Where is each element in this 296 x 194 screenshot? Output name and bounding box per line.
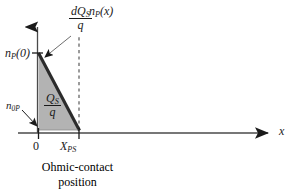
figure-caption: Ohmic-contact position bbox=[0, 160, 155, 190]
xps-subscript: PS bbox=[67, 145, 76, 154]
n0p-base: n bbox=[6, 99, 12, 111]
figure-container: nP(x) nP(0) n0P dQS q QS q 0 XPS x Ohmic… bbox=[0, 0, 296, 194]
y-axis-label-subscript: P bbox=[95, 10, 100, 19]
dqs-numerator-base: dQ bbox=[71, 4, 86, 18]
dqs-numerator-subscript: S bbox=[86, 10, 90, 19]
dqs-denominator: q bbox=[69, 19, 92, 32]
qs-numerator-subscript: S bbox=[55, 97, 59, 106]
stored-charge-label: QS q bbox=[44, 92, 61, 119]
qs-fraction: QS q bbox=[44, 92, 61, 119]
np0-argument: (0) bbox=[16, 46, 30, 60]
equilibrium-concentration-label: n0P bbox=[6, 100, 20, 111]
y-axis-label: nP(x) bbox=[89, 5, 113, 17]
caption-line-1: Ohmic-contact bbox=[0, 160, 155, 175]
x-tick-label-xps: XPS bbox=[60, 140, 76, 152]
qs-numerator: QS bbox=[44, 92, 61, 106]
qs-numerator-base: Q bbox=[46, 91, 55, 105]
qs-denominator: q bbox=[44, 106, 61, 119]
y-tick-label-np0: nP(0) bbox=[5, 47, 30, 59]
x-axis-label: x bbox=[279, 125, 284, 137]
dqs-fraction: dQS q bbox=[69, 5, 92, 32]
n0p-subscript: 0P bbox=[12, 104, 20, 113]
caption-line-2: position bbox=[0, 175, 155, 190]
x-tick-label-origin: 0 bbox=[33, 140, 39, 152]
dqs-leader-line bbox=[45, 36, 71, 57]
differential-charge-label: dQS q bbox=[69, 5, 92, 32]
np0-subscript: P bbox=[11, 52, 16, 61]
dqs-numerator: dQS bbox=[69, 5, 92, 19]
y-axis-label-argument: (x) bbox=[100, 4, 113, 18]
n0p-leader-line bbox=[22, 110, 37, 126]
